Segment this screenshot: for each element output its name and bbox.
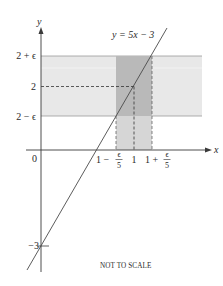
origin-label: 0: [32, 153, 37, 164]
line-equation-label: y = 5x − 3: [111, 29, 154, 40]
x-tick-1: 1: [132, 154, 137, 165]
epsilon-delta-diagram: y x y = 5x − 3 2 + ϵ 2 2 − ϵ −3 0 1 − ϵ …: [0, 0, 223, 286]
x-tick-1-plus-eps-over-5: 1 + ϵ 5: [145, 150, 171, 170]
x-tick-prefix: 1 −: [96, 154, 110, 165]
x-tick-frac-num: ϵ: [165, 150, 169, 159]
y-tick-2: 2: [31, 81, 36, 92]
x-tick-frac-num: ϵ: [117, 150, 121, 159]
x-axis-label: x: [213, 144, 219, 155]
x-tick-prefix: 1 +: [145, 154, 159, 165]
y-axis-arrow-icon: [39, 27, 44, 34]
x-axis-arrow-icon: [205, 148, 212, 153]
y-tick-2-plus-eps: 2 + ϵ: [16, 50, 36, 61]
y-tick-2-minus-eps: 2 − ϵ: [16, 111, 36, 122]
x-tick-frac-den: 5: [117, 161, 121, 170]
x-tick-frac-den: 5: [165, 161, 169, 170]
y-axis-label: y: [36, 16, 42, 27]
x-tick-1-minus-eps-over-5: 1 − ϵ 5: [96, 150, 123, 170]
y-tick-minus-3: −3: [28, 240, 39, 251]
not-to-scale-caption: NOT TO SCALE: [100, 262, 152, 270]
